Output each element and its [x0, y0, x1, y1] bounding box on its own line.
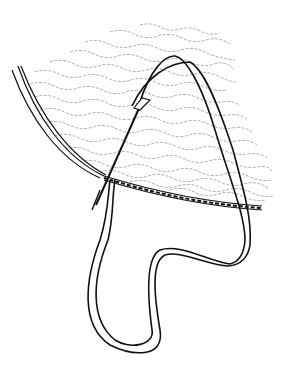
fabric-texture	[30, 24, 274, 201]
illustration-canvas	[0, 0, 286, 379]
needle	[92, 98, 150, 210]
bias-strip-loop	[88, 56, 250, 353]
sewing-illustration	[0, 0, 286, 379]
